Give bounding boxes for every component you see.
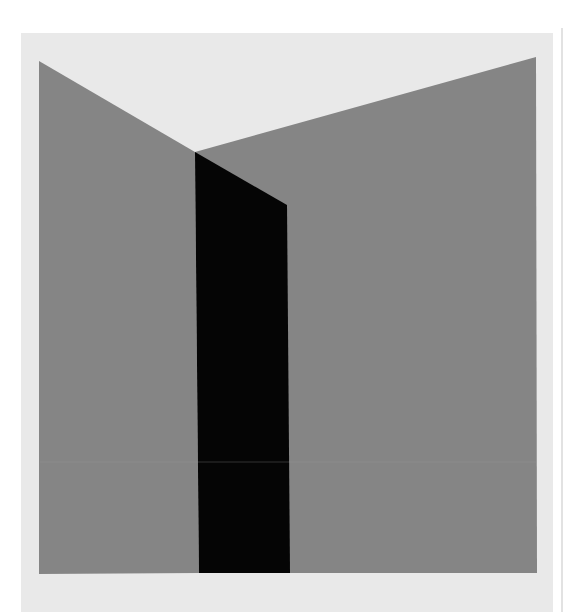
abstract-geometric-artwork [0, 0, 583, 612]
black-column [195, 152, 290, 573]
